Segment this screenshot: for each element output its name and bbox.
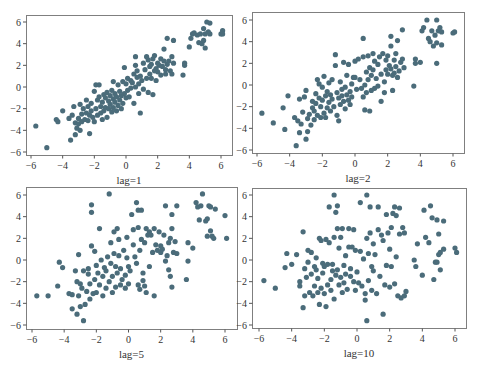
data-point (393, 51, 398, 56)
data-point (273, 286, 278, 291)
data-point (171, 38, 176, 43)
data-point (133, 54, 138, 59)
data-point (361, 94, 366, 99)
subplot-lag-10: −6−4−20246−6−4−20246 lag=10 (236, 189, 466, 360)
data-point (103, 286, 108, 291)
data-point (418, 60, 423, 65)
data-point (334, 113, 339, 118)
y-tick-label: 4 (242, 211, 247, 222)
data-point (97, 226, 102, 231)
data-point (354, 269, 359, 274)
x-tick-label: 2 (155, 160, 160, 171)
data-point (388, 34, 393, 39)
data-point (133, 63, 138, 68)
data-point (124, 255, 129, 260)
data-point (421, 25, 426, 30)
data-point (60, 108, 65, 113)
data-point (213, 207, 218, 212)
data-point (259, 111, 264, 116)
x-tick-label: −4 (284, 158, 295, 169)
data-point (366, 77, 371, 82)
data-point (312, 117, 317, 122)
data-point (438, 267, 443, 272)
data-point (341, 99, 346, 104)
data-point (366, 251, 371, 256)
data-point (454, 250, 459, 255)
data-point (368, 204, 373, 209)
data-point (412, 257, 417, 262)
x-tick-label: 4 (187, 160, 192, 171)
data-point (371, 241, 376, 246)
data-point (84, 289, 89, 294)
data-point (294, 143, 299, 148)
data-point (333, 210, 338, 215)
data-point (281, 105, 286, 110)
data-point (312, 108, 317, 113)
data-point (126, 281, 131, 286)
data-point (335, 203, 340, 208)
data-point (304, 275, 309, 280)
data-point (330, 97, 335, 102)
data-point (441, 247, 446, 252)
data-point (55, 283, 60, 288)
data-point (388, 66, 393, 71)
data-point (284, 251, 289, 256)
y-tick-label: −4 (10, 298, 21, 309)
data-point (333, 273, 338, 278)
data-point (222, 213, 227, 218)
data-point (346, 62, 351, 67)
data-point (333, 52, 338, 57)
data-point (354, 87, 359, 92)
data-point (309, 250, 314, 255)
y-tick-label: 6 (242, 15, 247, 26)
data-point (107, 191, 112, 196)
data-point (379, 72, 384, 77)
data-point (397, 205, 402, 210)
data-point (362, 82, 367, 87)
x-tick-label: 4 (420, 333, 425, 344)
data-point (305, 129, 310, 134)
y-tick-label: 6 (242, 190, 247, 201)
subplot-lag-5: −6−4−20246−6−4−20246 lag=5 (10, 188, 237, 361)
data-point (87, 296, 92, 301)
data-point (70, 113, 75, 118)
data-point (79, 112, 84, 117)
data-point (336, 246, 341, 251)
data-point (346, 226, 351, 231)
data-point (146, 90, 151, 95)
y-tick-label: 4 (16, 211, 21, 222)
data-point (121, 248, 126, 253)
x-tick-label: −4 (59, 334, 70, 345)
data-point (84, 97, 89, 102)
data-point (208, 228, 213, 233)
data-point (348, 102, 353, 107)
data-point (421, 208, 426, 213)
data-point (370, 51, 375, 56)
data-point (139, 78, 144, 83)
data-point (116, 82, 121, 87)
data-point (330, 268, 335, 273)
data-point (328, 277, 333, 282)
data-point (120, 277, 125, 282)
data-point (343, 106, 348, 111)
data-point (351, 227, 356, 232)
data-point (424, 17, 429, 22)
data-point (315, 290, 320, 295)
data-point (441, 218, 446, 223)
y-tick-label: 4 (242, 36, 247, 47)
data-point (282, 127, 287, 132)
data-point (76, 293, 81, 298)
y-tick-label: −4 (236, 298, 247, 309)
data-point (174, 251, 179, 256)
data-point (120, 101, 125, 106)
data-point (353, 248, 358, 253)
data-point (205, 234, 210, 239)
x-tick-label: −2 (91, 334, 102, 345)
data-point (94, 290, 99, 295)
data-point (163, 71, 168, 76)
data-point (332, 235, 337, 240)
data-point (338, 79, 343, 84)
data-point (92, 89, 97, 94)
data-point (434, 17, 439, 22)
data-point (434, 40, 439, 45)
